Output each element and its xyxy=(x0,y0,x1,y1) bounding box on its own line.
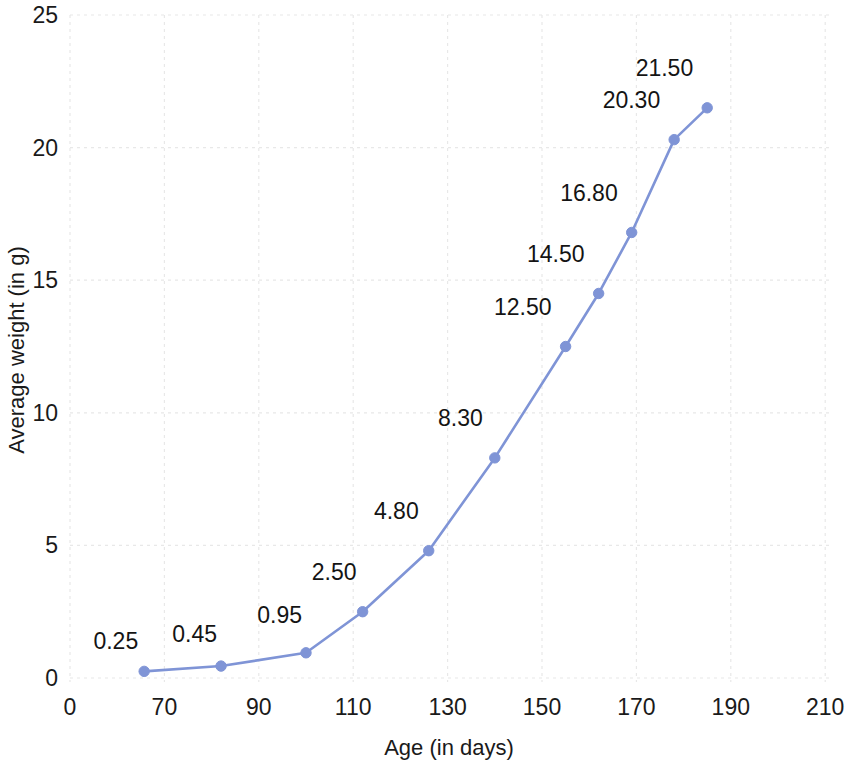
y-tick-label: 20 xyxy=(32,135,58,161)
data-point-label: 0.95 xyxy=(257,602,302,628)
line-chart: 0.250.450.952.504.808.3012.5014.5016.802… xyxy=(0,0,849,768)
data-point-marker xyxy=(490,453,500,463)
data-point-label: 2.50 xyxy=(312,559,357,585)
data-point-marker xyxy=(424,546,434,556)
x-tick-label: 90 xyxy=(246,694,272,720)
x-tick-label: 190 xyxy=(712,694,750,720)
data-point-marker xyxy=(301,648,311,658)
data-point-label: 16.80 xyxy=(560,180,618,206)
data-point-marker xyxy=(593,288,603,298)
data-point-label: 14.50 xyxy=(527,241,585,267)
data-point-label: 12.50 xyxy=(494,294,552,320)
chart-canvas: 0.250.450.952.504.808.3012.5014.5016.802… xyxy=(0,0,849,768)
y-tick-label: 25 xyxy=(32,2,58,28)
data-point-label: 4.80 xyxy=(374,498,419,524)
data-point-marker xyxy=(560,341,570,351)
data-point-label: 21.50 xyxy=(636,55,694,81)
y-tick-label: 10 xyxy=(32,400,58,426)
data-point-marker xyxy=(669,134,679,144)
x-tick-label: 210 xyxy=(806,694,844,720)
data-point-label: 0.25 xyxy=(93,628,138,654)
data-point-marker xyxy=(139,666,149,676)
x-tick-label: 170 xyxy=(617,694,655,720)
x-tick-label: 150 xyxy=(523,694,561,720)
data-point-marker xyxy=(702,103,712,113)
x-tick-label: 130 xyxy=(428,694,466,720)
data-point-marker xyxy=(357,607,367,617)
data-point-label: 8.30 xyxy=(438,405,483,431)
data-point-label: 20.30 xyxy=(603,87,661,113)
x-axis-title: Age (in days) xyxy=(384,735,514,760)
x-tick-label: 0 xyxy=(64,694,77,720)
data-point-marker xyxy=(216,661,226,671)
x-tick-label: 70 xyxy=(152,694,178,720)
y-tick-label: 5 xyxy=(45,532,58,558)
x-tick-label: 110 xyxy=(335,694,372,720)
y-tick-label: 15 xyxy=(32,267,58,293)
data-point-marker xyxy=(626,227,636,237)
y-tick-label: 0 xyxy=(45,665,58,691)
data-point-label: 0.45 xyxy=(172,621,217,647)
y-axis-title: Average weight (in g) xyxy=(4,246,29,454)
